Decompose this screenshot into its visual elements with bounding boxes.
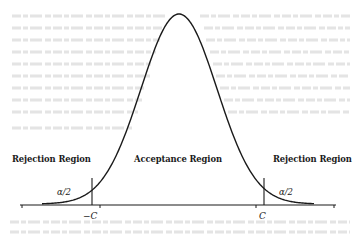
acceptance-region-label: Acceptance Region	[133, 154, 222, 164]
left-rejection-region-label: Rejection Region	[12, 154, 91, 164]
right-critical-value-label: C	[259, 211, 266, 221]
normal-density-curve	[42, 14, 314, 204]
normal-distribution-diagram: Rejection Region Acceptance Region Rejec…	[0, 0, 358, 236]
right-tail-area-label: α/2	[279, 187, 293, 197]
left-critical-value-label: −C	[83, 211, 98, 221]
right-rejection-region-label: Rejection Region	[273, 154, 352, 164]
left-tail-area-label: α/2	[57, 187, 71, 197]
